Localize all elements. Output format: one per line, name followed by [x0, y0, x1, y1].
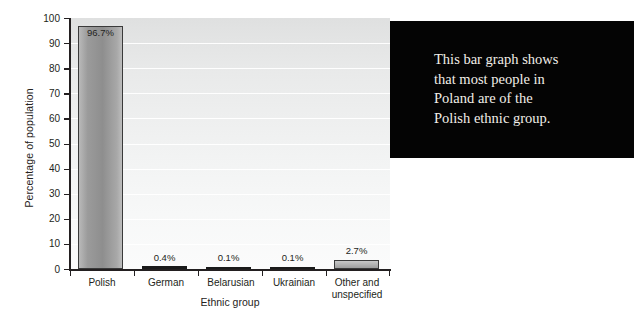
y-tick-0: [64, 269, 69, 270]
bar-value-belarusian: 0.1%: [206, 252, 251, 263]
x-label-german: German: [136, 277, 196, 289]
x-label-ukrainian: Ukrainian: [264, 277, 324, 289]
y-tick-30: [64, 194, 69, 195]
y-tick-label-20: 20: [20, 213, 60, 224]
bar-value-other: 2.7%: [334, 245, 379, 256]
caption-panel: This bar graph shows that most people in…: [390, 21, 634, 158]
y-tick-label-50: 50: [20, 138, 60, 149]
bar-polish: [78, 26, 123, 269]
x-tick-1: [134, 270, 135, 276]
y-tick-70: [64, 93, 69, 94]
y-tick-80: [64, 68, 69, 69]
x-axis-line: [69, 269, 391, 271]
y-tick-label-0: 0: [20, 264, 60, 275]
bar-chart-figure: Percentage of population 100 90 80 70 60…: [0, 0, 400, 327]
plot-area: [70, 18, 390, 269]
bar-other-and-unspecified: [334, 260, 379, 269]
y-tick-label-100: 100: [20, 13, 60, 24]
x-tick-0: [70, 270, 71, 276]
y-tick-label-90: 90: [20, 38, 60, 49]
y-tick-label-60: 60: [20, 113, 60, 124]
y-axis-line: [69, 18, 71, 270]
x-axis-title: Ethnic group: [70, 296, 390, 308]
bar-value-ukrainian: 0.1%: [270, 252, 315, 263]
y-tick-label-40: 40: [20, 163, 60, 174]
y-tick-label-70: 70: [20, 88, 60, 99]
y-tick-50: [64, 144, 69, 145]
caption-text: This bar graph shows that most people in…: [434, 50, 624, 128]
y-tick-label-10: 10: [20, 238, 60, 249]
x-tick-2: [198, 270, 199, 276]
bar-value-polish: 96.7%: [78, 27, 123, 38]
y-tick-60: [64, 118, 69, 119]
y-tick-40: [64, 169, 69, 170]
x-tick-5: [389, 270, 390, 276]
y-tick-20: [64, 219, 69, 220]
y-tick-10: [64, 244, 69, 245]
y-tick-100: [64, 18, 69, 19]
y-tick-label-80: 80: [20, 63, 60, 74]
y-tick-90: [64, 43, 69, 44]
x-tick-3: [262, 270, 263, 276]
bar-value-german: 0.4%: [142, 252, 187, 263]
x-tick-4: [326, 270, 327, 276]
y-tick-label-30: 30: [20, 188, 60, 199]
x-label-polish: Polish: [72, 277, 132, 289]
x-label-belarusian: Belarusian: [198, 277, 264, 289]
